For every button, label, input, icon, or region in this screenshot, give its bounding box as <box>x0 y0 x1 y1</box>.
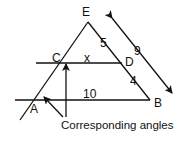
similar-triangles-diagram: E C D A B 5 x 4 10 9 Corresponding angle… <box>0 0 181 141</box>
point-label-A: A <box>30 102 38 116</box>
segment-label-AB: 10 <box>83 87 97 101</box>
point-label-B: B <box>154 96 162 110</box>
segment-label-EB: 9 <box>134 44 141 58</box>
segment-label-ED: 5 <box>100 36 107 50</box>
line-EB <box>88 22 150 100</box>
point-label-D: D <box>125 55 134 69</box>
segment-label-DB: 4 <box>130 74 137 88</box>
caption-corresponding-angles: Corresponding angles <box>61 119 174 131</box>
point-label-C: C <box>52 51 61 65</box>
segment-label-CD: x <box>84 51 90 65</box>
point-label-E: E <box>82 5 90 19</box>
length-9-double-arrow-icon <box>112 18 172 93</box>
